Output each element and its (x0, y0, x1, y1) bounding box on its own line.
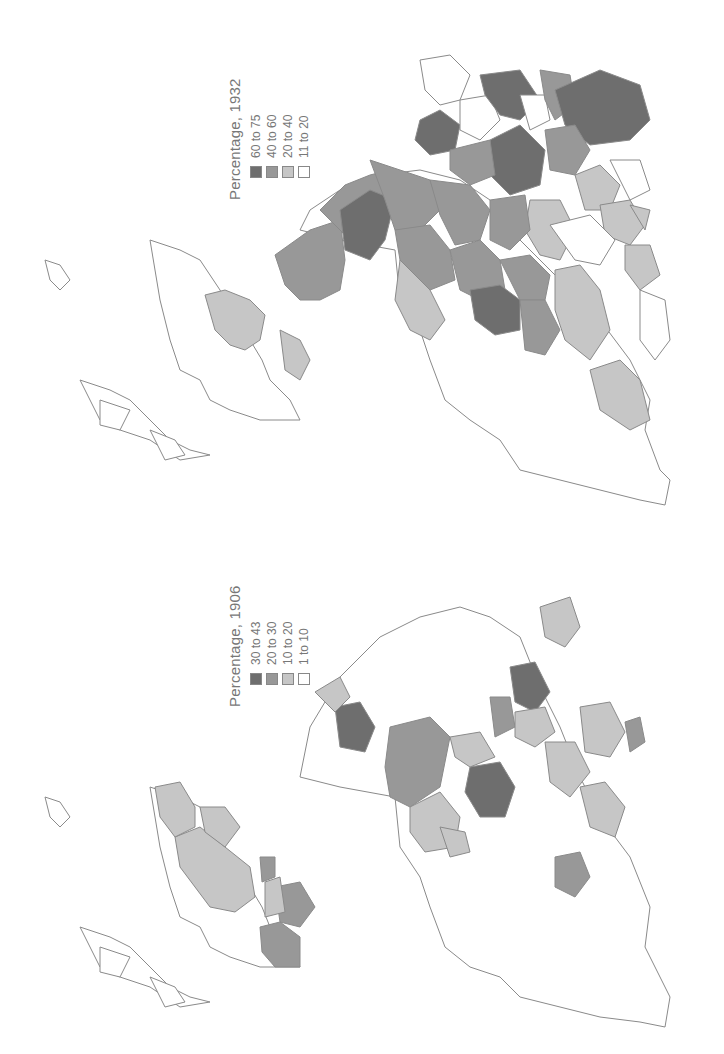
region (265, 877, 285, 917)
legend-item: 10 to 20 (280, 622, 296, 685)
legend-item: 60 to 75 (248, 115, 264, 178)
legend-label: 10 to 20 (281, 622, 295, 665)
region (275, 220, 345, 300)
legend-label: 20 to 30 (265, 622, 279, 665)
legend-1906: Percentage, 1906 30 to 43 20 to 30 10 to… (226, 585, 243, 707)
legend-label: 11 to 20 (297, 116, 311, 158)
legend-title: Percentage, 1932 (226, 78, 243, 200)
legend-title: Percentage, 1906 (226, 585, 243, 707)
legend-item: 20 to 30 (264, 622, 280, 685)
legend-label: 40 to 60 (265, 115, 279, 158)
choropleth-map-1906 (0, 527, 724, 1054)
legend-1932: Percentage, 1932 60 to 75 40 to 60 20 to… (226, 78, 243, 200)
region (580, 702, 625, 757)
region (260, 857, 275, 882)
island (45, 260, 70, 290)
legend-swatch (282, 673, 294, 685)
choropleth-map-1932 (0, 0, 724, 527)
region (625, 245, 660, 290)
region (420, 55, 470, 105)
legend-item: 40 to 60 (264, 115, 280, 178)
legend-swatch (266, 673, 278, 685)
legend-swatch (250, 166, 262, 178)
legend-swatch (298, 166, 310, 178)
legend-swatch (250, 673, 262, 685)
legend-label: 20 to 40 (281, 115, 295, 158)
legend-swatch (298, 673, 310, 685)
map-panel-1932: Percentage, 1932 60 to 75 40 to 60 20 to… (0, 0, 724, 527)
region (540, 597, 580, 647)
legend-label: 60 to 75 (249, 115, 263, 158)
legend-label: 1 to 10 (297, 628, 311, 665)
legend-swatch (266, 166, 278, 178)
legend-item: 11 to 20 (296, 115, 312, 178)
region (625, 717, 645, 752)
map-panel-1906: Percentage, 1906 30 to 43 20 to 30 10 to… (0, 527, 724, 1054)
island (45, 797, 70, 827)
region (280, 330, 310, 380)
region (490, 125, 545, 195)
region (640, 290, 670, 360)
legend-item: 1 to 10 (296, 622, 312, 685)
region (415, 110, 460, 155)
region (490, 195, 530, 250)
legend-item: 20 to 40 (280, 115, 296, 178)
legend-item: 30 to 43 (248, 622, 264, 685)
legend-label: 30 to 43 (249, 622, 263, 665)
region (450, 140, 495, 185)
legend-swatch (282, 166, 294, 178)
